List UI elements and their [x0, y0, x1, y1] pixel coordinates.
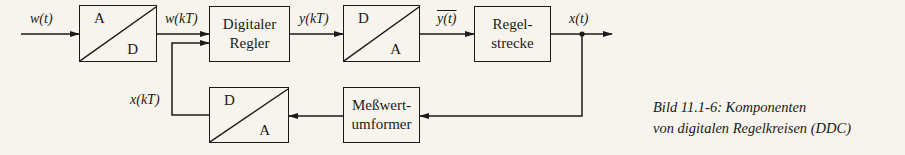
transducer-block: Meßwert- umformer: [343, 87, 420, 143]
signal-label-w-t: w(t): [30, 11, 53, 27]
caption-line1: Bild 11.1-6: Komponenten: [653, 97, 851, 118]
signal-label-x-t: x(t): [569, 11, 588, 27]
transducer-line1: Meßwert-: [344, 96, 419, 115]
transducer-line2: umformer: [344, 115, 419, 134]
y-bar-text: y(t): [437, 11, 456, 26]
ad-converter-block: A D: [79, 5, 157, 62]
plant-line1: Regel-: [475, 15, 550, 34]
plant-line2: strecke: [475, 34, 550, 53]
feedback-converter-top-label: D: [224, 92, 235, 109]
digital-controller-block: Digitaler Regler: [209, 6, 290, 62]
ad-input-label: A: [94, 10, 105, 27]
caption-line2: von digitalen Regelkreisen (DDC): [653, 118, 851, 139]
plant-block: Regel- strecke: [474, 6, 551, 62]
controller-line1: Digitaler: [210, 15, 289, 34]
feedback-converter-block: D A: [209, 87, 289, 143]
ad-output-label: D: [127, 41, 138, 58]
da-converter-block: D A: [343, 5, 420, 62]
da-output-label: A: [390, 41, 401, 58]
signal-label-y-kt: y(kT): [299, 11, 329, 27]
controller-line2: Regler: [210, 34, 289, 53]
feedback-converter-bottom-label: A: [259, 122, 270, 139]
signal-label-x-kt: x(kT): [130, 92, 160, 108]
da-input-label: D: [358, 10, 369, 27]
signal-label-y-bar-t: y(t): [437, 11, 456, 27]
figure-caption: Bild 11.1-6: Komponenten von digitalen R…: [653, 97, 851, 139]
signal-label-w-kt: w(kT): [165, 11, 198, 27]
